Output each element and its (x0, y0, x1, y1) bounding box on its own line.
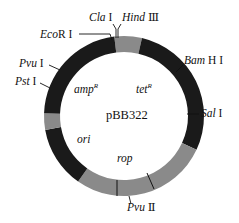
plasmid-map: pBB322 ampR tetR ori rop EcoR I Cla I Hi… (0, 0, 239, 223)
gene-rop-label: rop (117, 152, 133, 165)
gene-amp-label: ampR (74, 82, 99, 96)
site-ecor1-label: EcoR I (39, 28, 72, 40)
site-pst1-label: Pst I (14, 75, 37, 87)
site-pvu1-pointer (49, 65, 60, 70)
gene-tet-label: tetR (136, 82, 153, 95)
ring-segment-amp-region (44, 37, 116, 114)
plasmid-name: pBB322 (106, 108, 148, 122)
site-cla1-label: Cla I (89, 11, 113, 23)
site-pvu1-label: Pvu I (18, 57, 44, 69)
site-cla1-pointer (113, 24, 116, 38)
site-hind3-label: Hind Ⅲ (121, 11, 159, 23)
ring-segment-top-gray (114, 36, 142, 54)
site-pst1-pointer (40, 83, 50, 88)
site-sal1-label: Sal I (201, 107, 223, 119)
ring-segment-left-gray (44, 113, 61, 130)
site-bamh1-label: Bam H I (184, 54, 223, 66)
site-hind3-pointer (118, 24, 121, 38)
ring-segment-rop-region (78, 143, 196, 196)
gene-ori-label: ori (77, 133, 90, 145)
